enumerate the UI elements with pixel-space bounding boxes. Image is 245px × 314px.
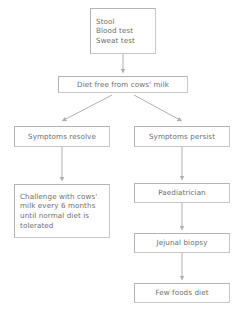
node-symptoms-persist-label: Symptoms persist: [140, 132, 224, 142]
node-paediatrician: Paediatrician: [134, 183, 230, 203]
node-symptoms-persist: Symptoms persist: [134, 126, 230, 147]
node-milk-challenge: Challenge with cows' milk every 6 months…: [14, 184, 110, 238]
node-jejunal-biopsy: Jejunal biopsy: [134, 233, 230, 253]
node-diet-free-cows-milk-label: Diet free from cows' milk: [64, 80, 182, 90]
node-diet-free-cows-milk: Diet free from cows' milk: [58, 76, 188, 93]
node-tests-label: Stool Blood test Sweat test: [96, 17, 150, 46]
node-tests: Stool Blood test Sweat test: [90, 8, 156, 54]
node-symptoms-resolve: Symptoms resolve: [14, 126, 110, 147]
edge-diet-to-persist: [134, 95, 180, 120]
node-paediatrician-label: Paediatrician: [140, 188, 224, 198]
node-jejunal-biopsy-label: Jejunal biopsy: [140, 238, 224, 248]
node-few-foods-diet-label: Few foods diet: [140, 288, 224, 298]
node-few-foods-diet: Few foods diet: [134, 283, 230, 303]
node-milk-challenge-label: Challenge with cows' milk every 6 months…: [20, 192, 104, 230]
node-symptoms-resolve-label: Symptoms resolve: [20, 132, 104, 142]
edge-diet-to-resolve: [64, 95, 112, 120]
flowchart-canvas: Stool Blood test Sweat test Diet free fr…: [0, 0, 245, 314]
